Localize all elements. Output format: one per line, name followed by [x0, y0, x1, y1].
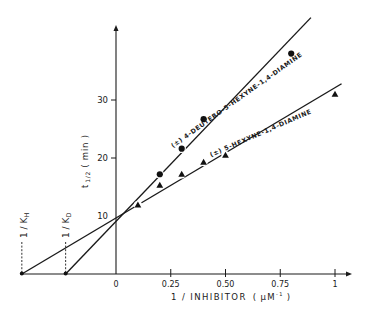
- fit-line: [22, 84, 342, 274]
- x-axis-label: 1 / INHIBITOR(μM-1): [171, 291, 292, 302]
- fit-line: [66, 18, 311, 274]
- y-label-sub: 1/2: [84, 171, 91, 183]
- series-label-hexyne: (±) 5-HEXYNE-1,4-DIAMINE: [209, 108, 313, 158]
- x-label-unit: μM: [261, 292, 277, 302]
- y-tick-label: 10: [97, 211, 108, 221]
- x-label-open: (: [253, 292, 258, 302]
- x-label-main: 1 / INHIBITOR: [171, 292, 247, 302]
- data-markers: [134, 49, 339, 209]
- x-ticks: 00.250.500.751: [113, 269, 337, 289]
- kd-label: 1 / KD: [61, 213, 73, 238]
- x-label-exp: -1: [276, 291, 284, 297]
- chart-canvas: 00.250.500.751 102030 (±) 4-DEUTERO-5-HE…: [0, 0, 369, 315]
- kh-label-main: 1 / K: [19, 217, 29, 238]
- series-label-deutero: (±) 4-DEUTERO-5-HEXYNE-1,4-DIAMINE: [170, 51, 304, 149]
- kd-label-main: 1 / K: [61, 217, 71, 238]
- circle-marker-icon: [179, 146, 185, 152]
- y-axis-arrow-icon: [114, 25, 119, 31]
- y-tick-label: 30: [97, 95, 108, 105]
- kh-label: 1 / KH: [19, 213, 31, 238]
- circle-marker-icon: [157, 171, 163, 177]
- x-tick-label: 0: [113, 280, 118, 289]
- intercept-dot-icon: [20, 272, 24, 276]
- x-tick-label: 0.50: [217, 280, 235, 289]
- y-axis-label: t1/2( min ): [80, 134, 91, 188]
- x-tick-label: 1: [332, 280, 337, 289]
- kh-label-sub: H: [23, 213, 31, 218]
- x-label-close: ): [287, 292, 292, 302]
- y-label-t: t: [80, 184, 90, 188]
- kd-label-sub: D: [65, 213, 73, 218]
- x-tick-label: 0.25: [162, 280, 180, 289]
- x-tick-label: 0.75: [271, 280, 289, 289]
- y-tick-label: 20: [97, 153, 108, 163]
- x-axis-arrow-icon: [346, 272, 352, 277]
- intercept-dot-icon: [64, 272, 68, 276]
- y-ticks: 102030: [97, 95, 116, 221]
- y-label-unit: ( min ): [80, 134, 90, 168]
